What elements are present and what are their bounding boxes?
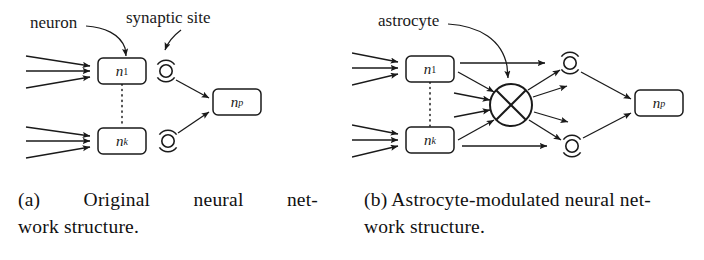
node-label-nk-b-base: n bbox=[424, 132, 432, 149]
node-label-nk-base: n bbox=[116, 133, 124, 150]
node-label-nk-b-sub: k bbox=[432, 135, 436, 146]
synapse-icon-upper-b bbox=[561, 52, 578, 74]
astrocyte-icon bbox=[490, 84, 532, 126]
synapse-icon-lower bbox=[159, 130, 176, 152]
node-label-n1-b-sub: 1 bbox=[431, 64, 436, 75]
node-label-n1-base: n bbox=[116, 63, 124, 80]
label-neuron: neuron bbox=[30, 13, 77, 33]
panel-original-network: neuron synaptic site n1 nk np (a) Origin… bbox=[0, 0, 352, 260]
node-label-n1: n1 bbox=[98, 58, 146, 84]
astrocyte-incoming-arrows bbox=[454, 72, 494, 140]
caption-a-line1: (a) Original neural net- bbox=[18, 186, 318, 213]
neuron-leader-line bbox=[86, 26, 126, 56]
synapse-to-np-arrows bbox=[176, 80, 209, 133]
node-label-np: np bbox=[213, 89, 261, 115]
astrocyte-leader-line bbox=[448, 24, 508, 78]
synaptic-site-leader-line bbox=[165, 30, 181, 50]
caption-b-line1: (b) Astrocyte-modulated neural net- bbox=[364, 186, 684, 213]
input-arrows-n1-b bbox=[352, 53, 398, 85]
astrocyte-outgoing-arrows bbox=[528, 70, 568, 140]
input-arrows-n1 bbox=[26, 56, 90, 88]
node-label-nk-b: nk bbox=[406, 127, 454, 153]
node-label-np-b: np bbox=[635, 90, 683, 116]
input-arrows-nk bbox=[26, 127, 90, 158]
synapse-to-np-arrows-b bbox=[581, 72, 631, 138]
label-synaptic-site: synaptic site bbox=[126, 8, 211, 28]
synapse-icon-lower-b bbox=[563, 135, 580, 157]
caption-a-line2: work structure. bbox=[18, 213, 318, 240]
node-label-n1-sub: 1 bbox=[123, 66, 128, 77]
input-arrows-nk-b bbox=[352, 125, 398, 157]
node-label-nk: nk bbox=[98, 128, 146, 154]
node-label-np-sub: p bbox=[238, 97, 243, 108]
node-label-n1-b: n1 bbox=[406, 56, 454, 82]
label-astrocyte: astrocyte bbox=[378, 11, 439, 31]
caption-b-line2: work structure. bbox=[364, 213, 684, 240]
caption-panel-a: (a) Original neural net- work structure. bbox=[18, 186, 318, 240]
node-label-np-b-sub: p bbox=[660, 98, 665, 109]
figure-root: neuron synaptic site n1 nk np (a) Origin… bbox=[0, 0, 704, 260]
panel-astrocyte-network: astrocyte n1 nk np (b) Astrocyte-modulat… bbox=[352, 0, 704, 260]
caption-panel-b: (b) Astrocyte-modulated neural net- work… bbox=[364, 186, 684, 240]
synapse-icon-upper bbox=[157, 60, 174, 82]
node-label-nk-sub: k bbox=[124, 136, 128, 147]
node-label-n1-b-base: n bbox=[424, 61, 432, 78]
